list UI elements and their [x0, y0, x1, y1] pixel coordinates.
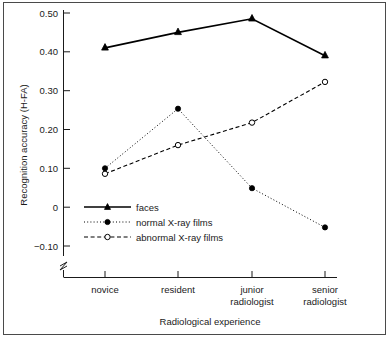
y-tick-label: 0.10: [40, 163, 59, 174]
x-tick-label-junior-line2: radiologist: [230, 296, 274, 307]
data-point: [102, 171, 107, 176]
x-axis-category-labels: novice resident junior radiologist senio…: [91, 284, 347, 307]
y-axis-ticks: 0.50 0.40 0.30 0.20 0.10 0 −0.10: [34, 8, 70, 252]
y-axis-title: Recognition accuracy (H-FA): [18, 84, 29, 205]
x-tick-label-resident: resident: [161, 284, 195, 295]
data-point: [175, 142, 180, 147]
chart-legend: faces normal X-ray films abnormal X-ray …: [84, 202, 223, 243]
x-axis-ticks: [105, 271, 325, 278]
y-tick-label: 0.20: [40, 124, 59, 135]
legend-label-abnormal-xray-films: abnormal X-ray films: [136, 232, 223, 243]
legend-label-faces: faces: [136, 202, 159, 213]
data-point: [102, 166, 107, 171]
x-tick-label-junior: junior: [239, 284, 263, 295]
data-point: [175, 106, 180, 111]
legend-marker-abnormal-xray-films: [105, 234, 110, 239]
x-tick-label-novice: novice: [91, 284, 118, 295]
y-tick-label: −0.10: [34, 241, 58, 252]
x-axis-title: Radiological experience: [160, 316, 261, 327]
data-point: [249, 186, 254, 191]
line-chart: 0.50 0.40 0.30 0.20 0.10 0 −0.10 novice …: [0, 0, 392, 340]
legend-marker-normal-xray-films: [105, 219, 110, 224]
series-markers-faces: [102, 15, 329, 58]
y-tick-label: 0: [53, 202, 58, 213]
data-point: [249, 120, 254, 125]
y-axis-break-icon: [60, 262, 67, 270]
legend-label-normal-xray-films: normal X-ray films: [136, 217, 213, 228]
data-point: [322, 225, 327, 230]
series-line-abnormal-xray-films: [105, 82, 325, 174]
y-tick-label: 0.50: [40, 8, 59, 19]
series-line-faces: [105, 19, 325, 56]
data-point: [322, 79, 327, 84]
y-tick-label: 0.40: [40, 46, 59, 57]
x-tick-label-senior-line2: radiologist: [303, 296, 347, 307]
y-tick-label: 0.30: [40, 85, 59, 96]
data-point: [249, 15, 256, 22]
x-tick-label-senior: senior: [312, 284, 338, 295]
